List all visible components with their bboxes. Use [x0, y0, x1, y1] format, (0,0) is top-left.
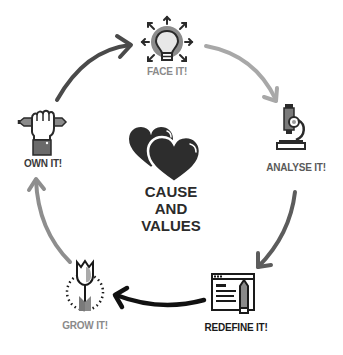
hand-holding-pencil-icon — [16, 108, 70, 156]
arrow-analyse-to-redefine — [258, 192, 295, 267]
step-label-analyse-it: ANALYSE IT! — [258, 162, 334, 173]
document-pencil-icon — [210, 272, 258, 316]
microscope-icon — [272, 102, 312, 152]
step-label-face-it: FACE IT! — [137, 66, 197, 77]
center-title: CAUSE AND VALUES — [121, 183, 221, 234]
center-title-line-2: AND — [121, 200, 221, 217]
arrow-grow-to-own — [29, 179, 70, 262]
step-label-grow-it: GROW IT! — [55, 320, 115, 331]
two-hearts-icon — [126, 124, 210, 186]
center-title-line-1: CAUSE — [121, 183, 221, 200]
arrow-face-to-analyse — [206, 46, 277, 101]
step-label-own-it: OWN IT! — [15, 158, 71, 169]
step-label-redefine-it: REDEFINE IT! — [196, 322, 276, 333]
tulip-icon — [60, 258, 110, 314]
lightbulb-icon — [137, 14, 197, 74]
center-title-line-3: VALUES — [121, 217, 221, 234]
arrow-redefine-to-grow — [115, 288, 204, 307]
arrow-own-to-face — [57, 36, 131, 100]
